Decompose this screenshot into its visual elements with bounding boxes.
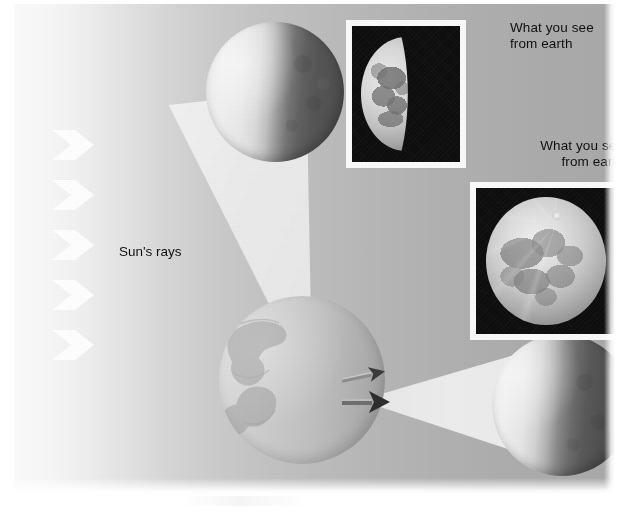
moon-sphere-top <box>206 22 344 162</box>
sun-ray-arrow <box>52 230 94 260</box>
caption-what-you-see-right: What you see from earth <box>484 138 614 170</box>
sight-arrow-right <box>342 391 390 413</box>
sun-ray-arrow <box>52 180 94 210</box>
caption-what-you-see-top: What you see from earth <box>510 20 594 52</box>
moon-phases-figure: What you see from earth What you see fro… <box>0 0 625 514</box>
photo-grain <box>476 188 614 334</box>
moon-sphere-right <box>492 334 614 476</box>
moon-surface-texture <box>492 334 614 476</box>
sun-ray-arrow <box>52 330 94 360</box>
plate-bottom-edge <box>14 478 614 494</box>
photo-first-quarter-moon <box>346 20 466 168</box>
plate-right-edge <box>604 4 614 494</box>
scan-artifact <box>180 496 380 506</box>
sun-rays-arrows <box>52 124 122 374</box>
illustration-plate: What you see from earth What you see fro… <box>14 4 614 494</box>
moon-surface-texture <box>206 22 344 162</box>
label-suns-rays: Sun's rays <box>119 244 182 260</box>
sight-arrow-upper <box>340 366 386 388</box>
photo-image-area <box>352 26 460 162</box>
sight-arrows-group <box>340 366 400 418</box>
photo-grain <box>352 26 460 162</box>
sun-ray-arrow <box>52 280 94 310</box>
photo-full-moon <box>470 182 614 340</box>
photo-image-area <box>476 188 614 334</box>
sun-ray-arrow <box>52 130 94 160</box>
